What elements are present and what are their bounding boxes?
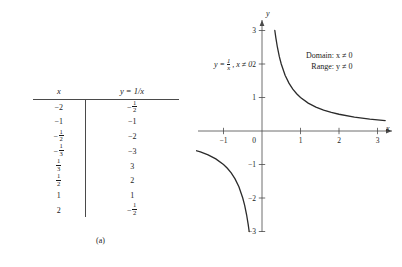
column-header-y: y = 1/x [85,84,179,100]
cell-x: 2 [33,203,85,218]
equation-fraction: 1 x [227,58,230,73]
range-text: Range: y ≠ 0 [306,62,352,73]
equation-denominator: x [227,64,230,72]
x-tick-label: −1 [220,136,228,145]
cell-y: −12 [85,203,179,218]
y-axis-arrowhead [260,20,265,26]
table-row: 11 [33,188,179,202]
cell-x: −12 [33,129,85,144]
cell-x: 12 [33,174,85,189]
values-table: x y = 1/x −2−12−1−1−12−2−13−3133122112−1… [33,84,179,217]
cell-y: −2 [85,129,179,144]
equation-numerator: 1 [227,58,230,65]
panel-a-table-figure: x y = 1/x −2−12−1−1−12−2−13−3133122112−1… [0,0,200,267]
x-axis-label: x [386,124,390,133]
y-axis-label: y [266,9,270,18]
cell-y: −1 [85,115,179,129]
y-tick-label: −1 [248,160,256,169]
cell-y: 3 [85,159,179,174]
domain-range-annotation: Domain: x ≠ 0 Range: y ≠ 0 [306,51,352,73]
table-body: −2−12−1−1−12−2−13−3133122112−12 [33,100,179,218]
y-tick-label: 2 [252,60,256,69]
table-row: 2−12 [33,203,179,218]
table-row: 122 [33,174,179,189]
column-header-x: x [33,84,85,100]
panel-b-graph-figure: −2−10123−3−2−1123 y = 1 x , x ≠ 0 Domain… [196,0,402,267]
table-row: 133 [33,159,179,174]
x-tick-label: 2 [337,136,341,145]
curve-branch-positive [275,31,385,121]
equation-equals: = [220,60,225,69]
x-tick-label: 3 [376,136,380,145]
table-header-row: x y = 1/x [33,84,179,100]
hyperbola-plot: −2−10123−3−2−1123 [196,0,402,267]
equation-condition: , x ≠ 0 [232,60,252,69]
cell-y: 2 [85,174,179,189]
curve-branch-negative [196,141,249,231]
y-tick-label: 3 [252,26,256,35]
axes [198,20,392,232]
table-row: −13−3 [33,144,179,159]
cell-x: −2 [33,100,85,115]
domain-text: Domain: x ≠ 0 [306,51,352,62]
y-tick-label: 1 [252,93,256,102]
cell-y: −3 [85,144,179,159]
table-row: −1−1 [33,115,179,129]
table-row: −12−2 [33,129,179,144]
cell-y: −12 [85,100,179,115]
x-tick-label: 1 [299,136,303,145]
x-tick-label: 0 [252,136,256,145]
table-row: −2−12 [33,100,179,115]
cell-y: 1 [85,188,179,202]
y-tick-label: −2 [248,194,256,203]
cell-x: 1 [33,188,85,202]
equation-lhs: y [214,60,218,69]
cell-x: −1 [33,115,85,129]
caption-a: (a) [96,236,105,245]
equation-label: y = 1 x , x ≠ 0 [214,58,252,73]
